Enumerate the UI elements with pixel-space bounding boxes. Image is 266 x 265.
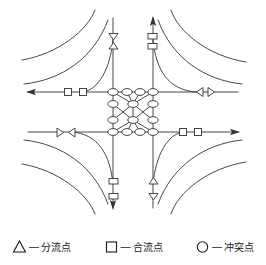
conflict-point [148, 117, 158, 124]
conflict-point [122, 129, 132, 136]
merge-point [195, 129, 202, 136]
legend-label-conflict: 冲突点 [224, 239, 254, 254]
diverge-point [109, 34, 118, 41]
legend-label-diverge: 分流点 [41, 239, 71, 254]
ramp-outer-nw [22, 10, 95, 60]
diverge-point [208, 88, 215, 97]
legend-dash-conflict: — [211, 241, 223, 252]
legend-item-diverge: — 分流点 [12, 239, 71, 254]
conflict-point [108, 101, 118, 108]
ramp-inner-ne [153, 40, 196, 92]
ramp-outer-ne [171, 10, 246, 62]
diverge-point [197, 88, 204, 97]
inner-ramps [72, 40, 196, 184]
merge-point [148, 34, 157, 40]
legend-item-merge: — 合流点 [104, 239, 163, 254]
legend-label-merge: 合流点 [133, 239, 163, 254]
ramp-mid-sw [24, 140, 108, 204]
conflict-point [148, 101, 158, 108]
conflict-point [135, 89, 145, 96]
merge-point [109, 194, 118, 200]
square-icon [104, 239, 119, 254]
diverge-point [149, 194, 158, 201]
conflict-point [108, 129, 118, 136]
roadway-group [22, 10, 246, 214]
ramp-inner-se [153, 132, 183, 184]
outer-loop-ramps [22, 10, 246, 214]
legend-item-conflict: — 冲突点 [195, 239, 254, 254]
conflict-point [128, 117, 138, 124]
merge-point [80, 89, 87, 96]
legend: — 分流点 — 合流点 — 冲突点 [0, 228, 266, 265]
legend-dash-diverge: — [28, 241, 40, 252]
diverge-point [69, 128, 76, 137]
ramp-mid-nw [24, 20, 108, 84]
legend-dash-merge: — [120, 241, 132, 252]
ramp-outer-sw [22, 164, 95, 214]
merge-point [109, 179, 118, 185]
conflict-point [122, 89, 132, 96]
triangle-icon [12, 239, 27, 254]
merge-point [65, 89, 72, 96]
interchange-diagram [0, 0, 266, 225]
merge-point [180, 129, 187, 136]
ramp-mid-se [158, 140, 242, 204]
conflict-point [128, 101, 138, 108]
diverge-point [109, 43, 118, 50]
ramp-mid-ne [158, 20, 242, 84]
circle-icon [195, 239, 210, 254]
ramp-outer-se [171, 162, 246, 214]
conflict-point [108, 117, 118, 124]
conflict-point [148, 129, 158, 136]
diverge-point [57, 128, 64, 137]
conflict-point [148, 89, 158, 96]
conflict-point [135, 129, 145, 136]
conflict-point [108, 89, 118, 96]
central-weaving-links [113, 92, 153, 132]
figure-container: — 分流点 — 合流点 — 冲突点 [0, 0, 266, 265]
ramp-inner-nw [83, 40, 113, 92]
merge-point [148, 44, 157, 50]
diverge-point [149, 178, 158, 185]
